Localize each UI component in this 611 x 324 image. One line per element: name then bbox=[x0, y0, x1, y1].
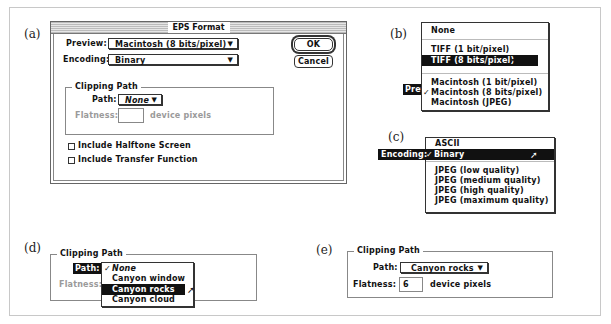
panel-label-d: (d) bbox=[24, 241, 41, 255]
halftone-checkbox[interactable] bbox=[68, 143, 75, 150]
chevron-down-icon: ▼ bbox=[151, 95, 157, 106]
checkmark-icon: ✓ bbox=[426, 149, 433, 160]
flatness-input[interactable] bbox=[118, 108, 144, 123]
path-popup[interactable]: Canyon rocks ▼ bbox=[400, 262, 488, 273]
menu-separator bbox=[422, 73, 548, 74]
transfer-checkbox[interactable] bbox=[68, 157, 75, 164]
panel-label-a: (a) bbox=[24, 27, 41, 41]
panel-label-e: (e) bbox=[316, 243, 332, 257]
menu-item[interactable]: TIFF (1 bit/pixel) bbox=[422, 44, 548, 55]
transfer-label: Include Transfer Function bbox=[78, 155, 198, 164]
flatness-units: device pixels bbox=[430, 280, 491, 289]
clipping-path-title: Clipping Path bbox=[57, 249, 126, 259]
path-menu: ✓ None Canyon window Canyon rocks ➚ Cany… bbox=[101, 262, 194, 307]
menu-item[interactable]: None bbox=[422, 25, 548, 36]
clipping-path-title: Clipping Path bbox=[354, 246, 423, 256]
menu-item-highlighted[interactable]: TIFF (8 bits/pixel) bbox=[422, 55, 538, 66]
preview-popup-value: Macintosh (8 bits/pixel) bbox=[109, 40, 226, 49]
encoding-popup-value: Binary bbox=[109, 56, 145, 65]
flatness-label: Flatness: bbox=[75, 111, 118, 120]
dialog-title: EPS Format bbox=[167, 22, 229, 33]
flatness-input[interactable]: 6 bbox=[399, 277, 423, 292]
flatness-label: Flatness: bbox=[59, 280, 102, 289]
path-popup[interactable]: None ▼ bbox=[118, 94, 162, 105]
menu-item[interactable]: JPEG (maximum quality) bbox=[426, 195, 554, 206]
menu-separator bbox=[422, 39, 548, 40]
preview-menu: None TIFF (1 bit/pixel) TIFF (8 bits/pix… bbox=[421, 22, 549, 111]
chevron-down-icon: ▼ bbox=[227, 39, 233, 50]
menu-item[interactable]: Canyon cloud bbox=[102, 294, 193, 305]
menu-item[interactable]: ASCII bbox=[426, 138, 554, 149]
chevron-down-icon: ▼ bbox=[227, 55, 233, 66]
cancel-button[interactable]: Cancel bbox=[294, 55, 333, 68]
cursor-icon: ➚ bbox=[530, 150, 538, 161]
path-menu-label: Path: bbox=[73, 263, 102, 274]
path-popup-value: None bbox=[119, 96, 149, 105]
clipping-path-title: Clipping Path bbox=[72, 82, 141, 92]
preview-popup[interactable]: Macintosh (8 bits/pixel) ▼ bbox=[108, 38, 238, 49]
flatness-label: Flatness: bbox=[353, 280, 396, 289]
menu-separator bbox=[426, 161, 554, 162]
menu-item[interactable]: Canyon window bbox=[102, 273, 193, 284]
eps-format-dialog: EPS Format Preview: Macintosh (8 bits/pi… bbox=[50, 21, 347, 184]
encoding-menu-label: Encoding: bbox=[378, 150, 427, 159]
panel-label-c: (c) bbox=[388, 130, 404, 144]
clipping-path-group: Clipping Path Path: None ▼ Flatness: dev… bbox=[65, 87, 274, 135]
encoding-popup[interactable]: Binary ▼ bbox=[108, 54, 238, 65]
path-label: Path: bbox=[92, 95, 117, 104]
preview-label: Preview: bbox=[66, 39, 107, 48]
encoding-menu-highlighted-row[interactable]: Encoding: ✓ Binary ➚ bbox=[378, 149, 554, 160]
path-label: Path: bbox=[373, 263, 398, 272]
flatness-units: device pixels bbox=[150, 111, 211, 120]
path-popup-value: Canyon rocks bbox=[401, 264, 474, 273]
halftone-label: Include Halftone Screen bbox=[78, 141, 191, 150]
chevron-down-icon: ▼ bbox=[477, 263, 483, 274]
clipping-path-group-e: Clipping Path Path: Canyon rocks ▼ Flatn… bbox=[347, 251, 553, 298]
ok-button[interactable]: OK bbox=[294, 38, 333, 51]
cursor-icon: ➚ bbox=[508, 56, 516, 66]
menu-item[interactable]: Macintosh (JPEG) bbox=[422, 97, 548, 108]
panel-label-b: (b) bbox=[390, 27, 407, 41]
encoding-label: Encoding: bbox=[63, 55, 109, 64]
dialog-titlebar[interactable]: EPS Format bbox=[51, 22, 346, 34]
